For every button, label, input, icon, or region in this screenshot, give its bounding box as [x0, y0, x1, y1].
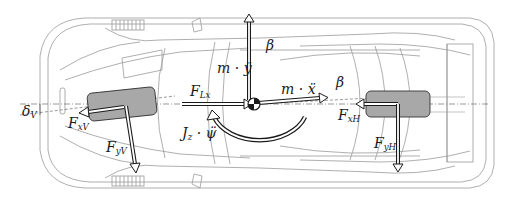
yaw-moment-arc	[207, 110, 305, 140]
center-of-gravity	[248, 98, 260, 110]
label-F-yV: FyV	[106, 140, 127, 156]
label-F-Lx: FLx	[190, 84, 210, 100]
lateral-acceleration-arrow	[244, 14, 254, 100]
vehicle-dynamics-diagram	[0, 0, 508, 206]
label-beta-right: β	[336, 75, 344, 89]
label-delta-V: δV	[22, 104, 37, 120]
label-Jz-psiddot: Jz · ψ̈	[182, 126, 217, 142]
label-m-yddot: m · ÿ	[217, 61, 252, 75]
label-F-xV: FxV	[68, 116, 89, 132]
front-wheel	[87, 87, 158, 122]
rear-wing	[447, 44, 473, 162]
label-m-xddot: m · ẍ	[281, 82, 316, 96]
longitudinal-force-arrow	[182, 99, 252, 109]
label-F-xH: FxH	[338, 108, 360, 124]
label-beta-top: β	[266, 38, 274, 52]
label-F-yH: FyH	[374, 136, 396, 152]
